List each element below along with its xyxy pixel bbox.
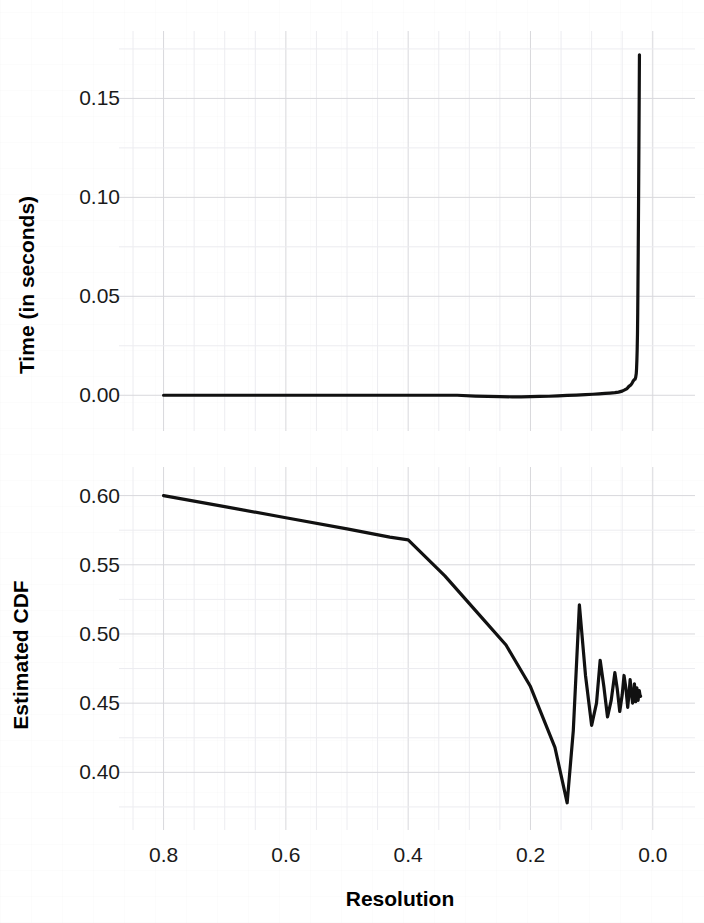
time-panel-gridlines: [119, 31, 695, 431]
time-panel-ytick-labels: 0.000.050.100.15: [79, 86, 120, 406]
ytick-label: 0.45: [79, 691, 120, 714]
ytick-label: 0.00: [79, 383, 120, 406]
cdf-panel: 0.400.450.500.550.60 Estimated CDF: [9, 467, 695, 830]
cdf-panel-ylabel: Estimated CDF: [9, 580, 32, 730]
xtick-label: 0.6: [271, 843, 300, 866]
ytick-label: 0.10: [79, 185, 120, 208]
x-axis-tick-labels: 0.80.60.40.20.0: [149, 843, 667, 866]
xtick-label: 0.8: [149, 843, 178, 866]
xtick-label: 0.4: [394, 843, 424, 866]
ytick-label: 0.05: [79, 284, 120, 307]
chart-svg: 0.000.050.100.15 Time (in seconds) 0.400…: [0, 0, 704, 923]
cdf-series-line: [164, 496, 641, 803]
cdf-panel-ytick-labels: 0.400.450.500.550.60: [79, 484, 120, 784]
time-panel-ylabel: Time (in seconds): [15, 196, 38, 374]
ytick-label: 0.50: [79, 622, 120, 645]
x-axis-label: Resolution: [346, 887, 455, 910]
time-panel: 0.000.050.100.15 Time (in seconds): [15, 31, 695, 431]
x-axis: 0.80.60.40.20.0 Resolution: [149, 843, 667, 910]
ytick-label: 0.40: [79, 760, 120, 783]
chart-figure: 0.000.050.100.15 Time (in seconds) 0.400…: [0, 0, 704, 923]
xtick-label: 0.2: [516, 843, 545, 866]
ytick-label: 0.55: [79, 553, 120, 576]
ytick-label: 0.60: [79, 484, 120, 507]
xtick-label: 0.0: [638, 843, 667, 866]
cdf-panel-gridlines: [119, 467, 695, 830]
ytick-label: 0.15: [79, 86, 120, 109]
